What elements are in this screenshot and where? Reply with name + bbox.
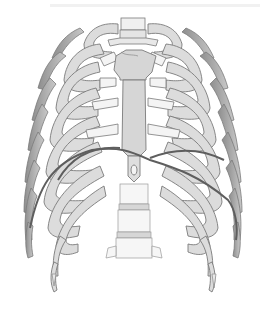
vertebral-column-lower	[106, 184, 162, 258]
sternum	[114, 50, 156, 182]
floating-rib-tips	[52, 274, 216, 288]
top-band	[50, 4, 260, 7]
rib-cage-illustration	[0, 0, 266, 321]
